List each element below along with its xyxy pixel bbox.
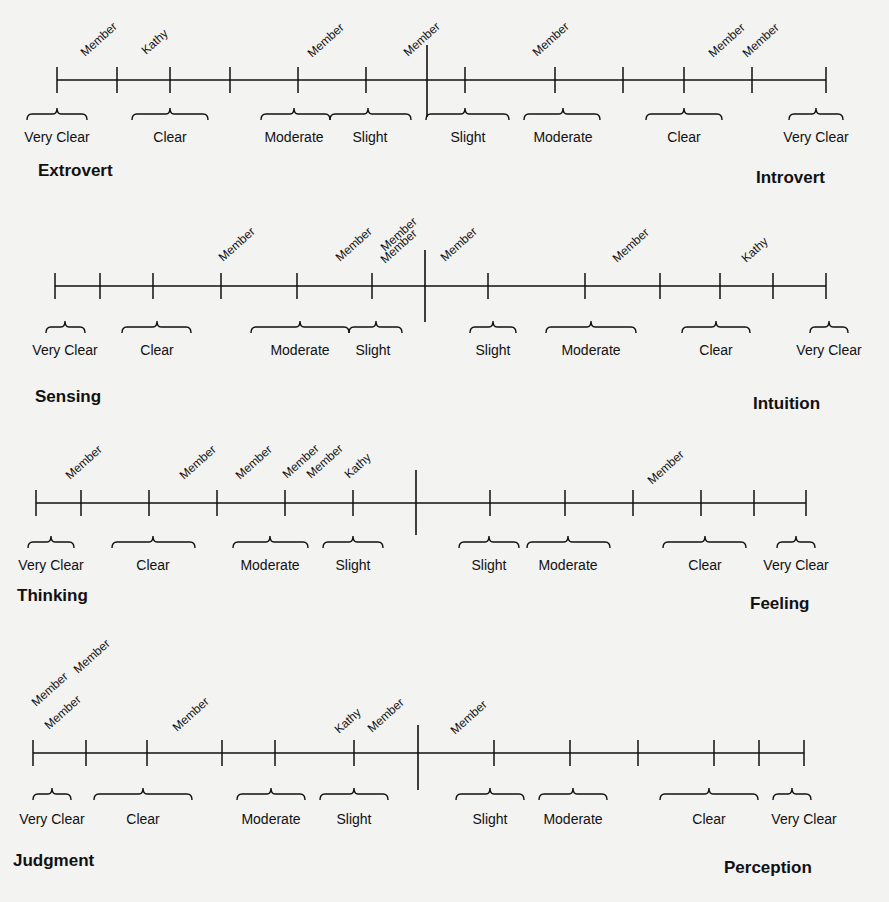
member-marker: Member — [645, 447, 687, 487]
category-brace — [330, 108, 411, 120]
category-label: Slight — [450, 129, 485, 145]
category-brace — [459, 536, 519, 548]
scale-sn: Very ClearClearModerateSlightSlightModer… — [32, 214, 862, 413]
category-label: Slight — [472, 811, 507, 827]
right-pole-label: Introvert — [756, 168, 825, 187]
category-brace — [46, 321, 85, 333]
member-marker: Member — [706, 20, 748, 60]
category-label: Very Clear — [763, 557, 829, 573]
category-label: Slight — [352, 129, 387, 145]
category-brace — [426, 108, 509, 120]
category-brace — [546, 321, 636, 333]
right-pole-label: Intuition — [753, 394, 820, 413]
member-marker: Member — [233, 442, 275, 482]
category-brace — [112, 536, 195, 548]
member-marker: Member — [333, 224, 375, 264]
category-brace — [251, 321, 349, 333]
member-marker: Member — [448, 697, 490, 737]
category-label: Clear — [692, 811, 726, 827]
member-marker: Member — [305, 20, 347, 60]
scales-canvas: Very ClearClearModerateSlightSlightModer… — [0, 0, 889, 902]
category-brace — [470, 321, 516, 333]
category-brace — [349, 321, 402, 333]
right-pole-label: Perception — [724, 858, 812, 877]
left-pole-label: Judgment — [13, 851, 95, 870]
category-brace — [810, 321, 848, 333]
category-brace — [320, 788, 388, 800]
preference-scales-diagram: Very ClearClearModerateSlightSlightModer… — [0, 0, 889, 902]
member-marker: Member — [610, 225, 652, 265]
member-marker: Member — [740, 20, 782, 60]
member-marker: Member — [401, 19, 443, 59]
left-pole-label: Thinking — [17, 586, 88, 605]
member-marker: Member — [365, 695, 407, 735]
category-brace — [789, 108, 843, 120]
category-brace — [323, 536, 383, 548]
category-label: Moderate — [264, 129, 323, 145]
member-marker: Member — [216, 224, 258, 264]
member-marker: Member — [177, 442, 219, 482]
category-label: Very Clear — [783, 129, 849, 145]
kathy-marker: Kathy — [139, 26, 171, 57]
kathy-marker: Kathy — [342, 450, 374, 481]
left-pole-label: Extrovert — [38, 161, 113, 180]
scale-jp: Very ClearClearModerateSlightSlightModer… — [13, 636, 837, 877]
category-label: Clear — [699, 342, 733, 358]
scale-ei: Very ClearClearModerateSlightSlightModer… — [24, 19, 849, 187]
category-label: Moderate — [241, 811, 300, 827]
right-pole-label: Feeling — [750, 594, 810, 613]
category-brace — [132, 108, 208, 120]
category-brace — [539, 788, 607, 800]
category-label: Very Clear — [771, 811, 837, 827]
category-label: Clear — [667, 129, 701, 145]
category-label: Slight — [335, 557, 370, 573]
member-marker: Member — [170, 694, 212, 734]
category-label: Very Clear — [796, 342, 862, 358]
category-label: Moderate — [240, 557, 299, 573]
left-pole-label: Sensing — [35, 387, 101, 406]
category-brace — [663, 536, 746, 548]
category-label: Very Clear — [32, 342, 98, 358]
scale-tf: Very ClearClearModerateSlightSlightModer… — [17, 441, 829, 613]
category-brace — [646, 108, 722, 120]
category-label: Very Clear — [19, 811, 85, 827]
category-brace — [660, 788, 758, 800]
category-label: Moderate — [270, 342, 329, 358]
category-brace — [777, 536, 815, 548]
category-label: Clear — [136, 557, 170, 573]
category-brace — [524, 108, 600, 120]
category-brace — [33, 788, 71, 800]
kathy-marker: Kathy — [739, 234, 771, 265]
category-label: Moderate — [538, 557, 597, 573]
category-label: Clear — [140, 342, 174, 358]
category-brace — [28, 536, 74, 548]
category-label: Moderate — [561, 342, 620, 358]
member-marker: Member — [63, 442, 105, 482]
category-brace — [27, 108, 87, 120]
category-brace — [456, 788, 524, 800]
category-brace — [122, 321, 191, 333]
category-label: Clear — [153, 129, 187, 145]
member-marker: Member — [438, 224, 480, 264]
category-brace — [682, 321, 750, 333]
category-brace — [233, 536, 308, 548]
category-label: Very Clear — [24, 129, 90, 145]
category-brace — [94, 788, 192, 800]
member-marker: Member — [78, 19, 120, 59]
category-label: Moderate — [533, 129, 592, 145]
category-label: Slight — [355, 342, 390, 358]
category-label: Very Clear — [18, 557, 84, 573]
category-label: Clear — [126, 811, 160, 827]
category-brace — [237, 788, 305, 800]
category-brace — [527, 536, 610, 548]
category-label: Clear — [688, 557, 722, 573]
category-label: Slight — [336, 811, 371, 827]
category-brace — [773, 788, 811, 800]
member-marker: Member — [530, 19, 572, 59]
kathy-marker: Kathy — [332, 705, 364, 736]
category-label: Slight — [475, 342, 510, 358]
category-label: Moderate — [543, 811, 602, 827]
category-brace — [261, 108, 330, 120]
category-label: Slight — [471, 557, 506, 573]
member-marker: Member — [71, 636, 113, 676]
